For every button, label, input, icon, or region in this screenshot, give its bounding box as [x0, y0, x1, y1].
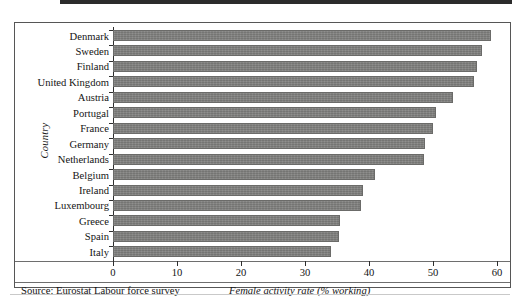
category-label: Luxembourg	[54, 200, 109, 211]
page-bottom-rule	[10, 294, 510, 295]
category-tick	[109, 169, 113, 170]
footer-separator-top	[15, 261, 510, 262]
category-tick	[109, 76, 113, 77]
bar	[113, 246, 331, 257]
category-label: Denmark	[70, 31, 109, 42]
bar	[113, 231, 339, 242]
chart-figure: Country DenmarkSwedenFinlandUnited Kingd…	[14, 22, 511, 288]
bar	[113, 215, 340, 226]
x-axis-tick	[177, 261, 178, 266]
bar	[113, 138, 425, 149]
category-tick	[109, 215, 113, 216]
bar	[113, 76, 474, 87]
bar	[113, 154, 424, 165]
x-axis-tick-label: 50	[428, 267, 439, 278]
x-axis-tick	[241, 261, 242, 266]
category-tick	[109, 61, 113, 62]
category-label: Belgium	[73, 170, 110, 181]
bar	[113, 123, 433, 134]
category-label: Netherlands	[58, 154, 109, 165]
category-label: United Kingdom	[37, 77, 109, 88]
x-axis-tick-label: 30	[300, 267, 311, 278]
x-axis-tick-label: 10	[172, 267, 183, 278]
bar	[113, 185, 363, 196]
bar	[113, 45, 482, 56]
category-tick	[109, 154, 113, 155]
category-label: Italy	[90, 247, 109, 258]
bar	[113, 107, 436, 118]
category-tick	[109, 107, 113, 108]
category-label: Austria	[78, 92, 109, 103]
x-axis-tick	[433, 261, 434, 266]
category-tick	[109, 138, 113, 139]
x-axis-tick-label: 40	[364, 267, 375, 278]
x-axis-tick	[369, 261, 370, 266]
category-tick	[109, 45, 113, 46]
x-axis-tick-label: 20	[236, 267, 247, 278]
category-label: Spain	[85, 231, 109, 242]
category-tick	[109, 30, 113, 31]
category-tick	[109, 231, 113, 232]
category-label: Germany	[70, 139, 109, 150]
bar	[113, 61, 477, 72]
bar	[113, 169, 375, 180]
category-label: Ireland	[79, 185, 109, 196]
category-label: Sweden	[75, 46, 109, 57]
category-label: Portugal	[73, 108, 109, 119]
x-axis-tick-label: 60	[492, 267, 503, 278]
bar	[113, 92, 453, 103]
bar	[113, 30, 491, 41]
category-label-column: DenmarkSwedenFinlandUnited KingdomAustri…	[33, 27, 109, 261]
category-tick	[109, 246, 113, 247]
x-axis-tick	[497, 261, 498, 266]
bar	[113, 200, 361, 211]
category-tick	[109, 123, 113, 124]
category-tick	[109, 92, 113, 93]
plot-area	[113, 27, 497, 261]
category-label: Finland	[77, 61, 109, 72]
category-label: France	[80, 123, 109, 134]
footer-separator-bottom	[15, 282, 510, 283]
x-axis-tick	[113, 261, 114, 266]
category-tick	[109, 200, 113, 201]
x-axis-tick	[305, 261, 306, 266]
x-axis-tick-label: 0	[110, 267, 115, 278]
category-tick	[109, 185, 113, 186]
category-label: Greece	[79, 216, 109, 227]
